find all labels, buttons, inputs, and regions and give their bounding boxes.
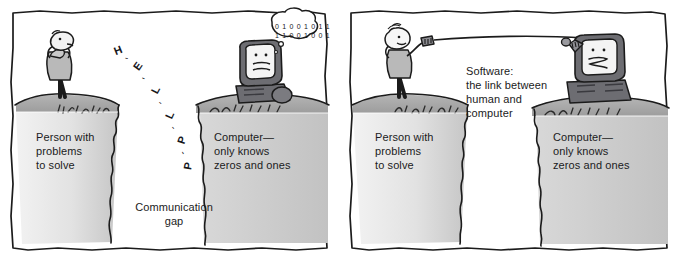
thought-bubble-dot-large [279, 42, 284, 47]
person-eye [398, 36, 401, 39]
person-figure [385, 24, 434, 97]
person-figure [47, 31, 74, 97]
caption-computer-left: Computer— only knows zeros and ones [214, 130, 291, 172]
computer-base-knob [272, 87, 292, 103]
caption-person-right: Person with problems to solve [375, 130, 434, 172]
computer-figure [236, 40, 292, 103]
computer-eye-right [265, 54, 268, 57]
computer-screen [246, 44, 275, 79]
plug-collar-computer [562, 38, 571, 46]
caption-person-left: Person with problems to solve [36, 130, 95, 172]
person-body [387, 50, 412, 78]
person-arm-raised [407, 43, 422, 56]
caption-software-link: Software: the link between human and com… [466, 64, 547, 120]
caption-communication-gap: Communication gap [112, 200, 236, 228]
computer-figure [562, 34, 632, 103]
computer-eye-left [592, 49, 595, 52]
thought-bubble-dot-small [275, 51, 278, 54]
computer-eye-right [603, 49, 606, 52]
cable-plug-person [421, 36, 434, 46]
thought-bubble-bits: 0 1 0 0 1 0 1 1 1 1 0 0 1 0 0 1 [275, 23, 330, 41]
computer-eye-left [255, 54, 258, 57]
person-legs [60, 78, 65, 97]
person-eye [59, 38, 62, 41]
person-head [385, 28, 410, 49]
caption-computer-right: Computer— only knows zeros and ones [553, 130, 630, 172]
cartoon-illustration: 0 1 0 0 1 0 1 1 1 1 0 0 1 0 0 1 H - E - … [0, 0, 677, 263]
person-head [51, 32, 74, 50]
